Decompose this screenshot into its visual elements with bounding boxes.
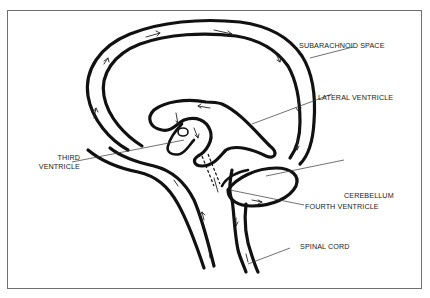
label-cerebellum: CEREBELLUM <box>344 191 394 200</box>
label-spinal-cord: SPINAL CORD <box>300 242 350 251</box>
label-lateral-ventricle: LATERAL VENTRICLE <box>318 93 393 102</box>
label-third-ventricle-line1: THIRD <box>40 153 80 162</box>
label-third-ventricle-line2: VENTRICLE <box>30 162 80 171</box>
label-subarachnoid-space: SUBARACHNOID SPACE <box>299 41 385 50</box>
label-fourth-ventricle: FOURTH VENTRICLE <box>305 202 379 211</box>
subarachnoid-space-outline <box>87 21 314 273</box>
lateral-ventricle <box>150 100 275 166</box>
